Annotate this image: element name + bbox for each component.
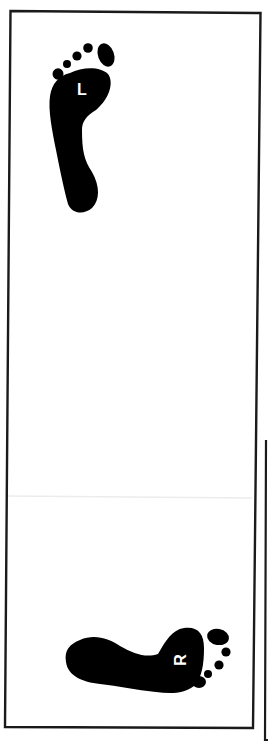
right-foot-label: R [172, 654, 189, 666]
left-footprint: L [49, 41, 117, 213]
right-toe-4 [204, 670, 212, 678]
right-toe-3 [214, 660, 223, 669]
left-toe-4 [63, 60, 71, 68]
left-toe-2 [83, 43, 93, 53]
right-toe-2 [221, 647, 230, 656]
right-big-toe [206, 627, 230, 647]
left-foot-label: L [77, 81, 87, 98]
scan-seam [8, 496, 252, 498]
left-big-toe [94, 41, 117, 69]
footprint-card: L R [0, 0, 268, 752]
card-border [5, 11, 261, 728]
right-footprint: R [66, 627, 231, 693]
left-toe-3 [72, 51, 81, 60]
adjacent-card-edge [265, 440, 268, 740]
